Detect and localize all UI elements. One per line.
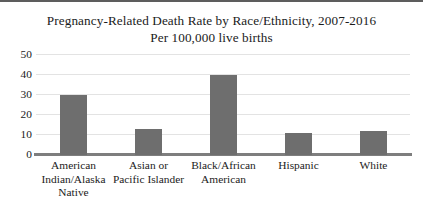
- chart-subtitle: Per 100,000 live births: [0, 30, 423, 47]
- x-label-line: Native: [58, 186, 88, 198]
- chart-title: Pregnancy-Related Death Rate by Race/Eth…: [0, 13, 423, 46]
- x-label-line: Hispanic: [278, 159, 319, 171]
- x-label-line: Indian/Alaska: [42, 173, 106, 185]
- x-axis: American Indian/Alaska Native Asian or P…: [36, 159, 410, 217]
- y-tick-label-20: 20: [2, 109, 32, 120]
- bar-black-african-american: [210, 75, 237, 155]
- bar-american-indian-alaska-native: [60, 95, 87, 155]
- bars-layer: [36, 54, 410, 155]
- y-tick-label-50: 50: [2, 49, 32, 60]
- x-label-line: American: [51, 159, 96, 171]
- x-label-line: White: [360, 159, 388, 171]
- x-label-line: American: [201, 173, 246, 185]
- bar-hispanic: [285, 133, 312, 155]
- x-label-line: Pacific Islander: [113, 173, 184, 185]
- y-tick-label-10: 10: [2, 129, 32, 140]
- bar-asian-or-pacific-islander: [135, 129, 162, 155]
- x-label-line: Asian or: [129, 159, 168, 171]
- x-label-line: Black/African: [191, 159, 256, 171]
- y-tick-label-40: 40: [2, 69, 32, 80]
- chart-container: Pregnancy-Related Death Rate by Race/Eth…: [0, 0, 423, 219]
- x-tick-label-white: White: [327, 159, 420, 173]
- y-tick-label-30: 30: [2, 89, 32, 100]
- chart-title-line-1: Pregnancy-Related Death Rate by Race/Eth…: [47, 13, 376, 28]
- bar-white: [360, 131, 387, 155]
